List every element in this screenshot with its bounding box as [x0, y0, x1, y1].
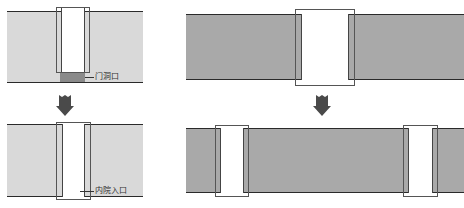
door-opening-leader-line: [85, 77, 94, 78]
courtyard-entrance-leader-line: [80, 191, 94, 192]
courtyard-entrance-label: 内院入口: [95, 186, 127, 196]
left-bottom-door-frame: [56, 122, 91, 200]
door-opening-fill: [60, 72, 85, 82]
right-bottom-door1-frame: [215, 125, 249, 197]
right-top-door-frame: [295, 9, 355, 86]
left-top-door-frame: [56, 7, 90, 73]
right-bottom-door2-frame: [403, 125, 438, 197]
down-arrow-icon-right: [313, 95, 331, 116]
door-opening-label: 门洞口: [95, 72, 119, 82]
down-arrow-icon-left: [56, 95, 74, 116]
